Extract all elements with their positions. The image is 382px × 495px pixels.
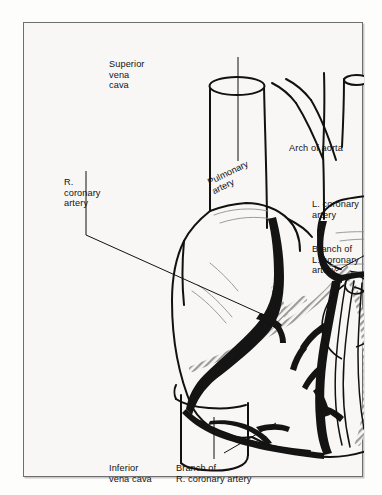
- label-branch-of-left-coronary-artery: Branch of L. coronary artery: [312, 244, 359, 276]
- right-coronary-artery: [186, 217, 286, 415]
- label-right-coronary-artery: R. coronary artery: [64, 177, 101, 209]
- leader-right-coronary-artery: [86, 171, 264, 315]
- label-arch-of-aorta: Arch of aorta: [289, 143, 343, 154]
- right-atrial-appendage: [288, 219, 312, 237]
- label-branch-of-right-coronary-artery: Branch of R. coronary artery: [176, 463, 251, 484]
- anterior-interventricular-vein: [335, 281, 364, 447]
- figure-page: Superior vena cava Arch of aorta R. coro…: [0, 0, 382, 495]
- label-superior-vena-cava: Superior vena cava: [109, 59, 145, 91]
- label-left-coronary-artery: L. coronary artery: [312, 199, 359, 220]
- figure-frame: Superior vena cava Arch of aorta R. coro…: [23, 22, 363, 477]
- branch-of-right-coronary-artery: [182, 409, 324, 459]
- label-inferior-vena-cava: Inferior vena cava: [109, 463, 152, 484]
